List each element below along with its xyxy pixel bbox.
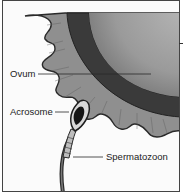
ovum-label: Ovum — [10, 68, 35, 79]
fertilization-illustration — [3, 1, 180, 192]
acrosome-label: Acrosome — [10, 106, 53, 117]
spermatozoon-label: Spermatozoon — [106, 151, 168, 162]
diagram-frame: Ovum Acrosome Spermatozoon — [2, 0, 180, 192]
sperm-head — [71, 100, 90, 131]
edge-tick-mark — [179, 43, 183, 44]
